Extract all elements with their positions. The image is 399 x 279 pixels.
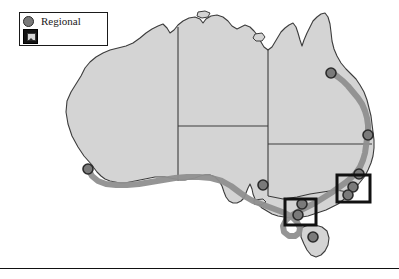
marker-melbourne-b[interactable] xyxy=(293,210,303,220)
marker-hobart[interactable] xyxy=(308,232,318,242)
marker-adelaide[interactable] xyxy=(258,180,268,190)
island-melville xyxy=(197,11,210,18)
island-groote-eylandt xyxy=(253,33,265,41)
image-placeholder-icon xyxy=(23,29,38,44)
marker-canberra-b[interactable] xyxy=(343,190,353,200)
map-figure: Regional xyxy=(0,0,399,279)
marker-cairns[interactable] xyxy=(326,68,336,78)
marker-brisbane[interactable] xyxy=(363,130,373,140)
bottom-horizontal-rule xyxy=(0,268,399,269)
circle-marker-icon xyxy=(23,16,34,27)
marker-perth[interactable] xyxy=(83,164,93,174)
legend-item-regional[interactable]: Regional xyxy=(23,15,81,27)
legend-item-image[interactable] xyxy=(23,29,45,44)
map-legend: Regional xyxy=(19,12,108,46)
legend-item-label-regional: Regional xyxy=(41,15,81,27)
